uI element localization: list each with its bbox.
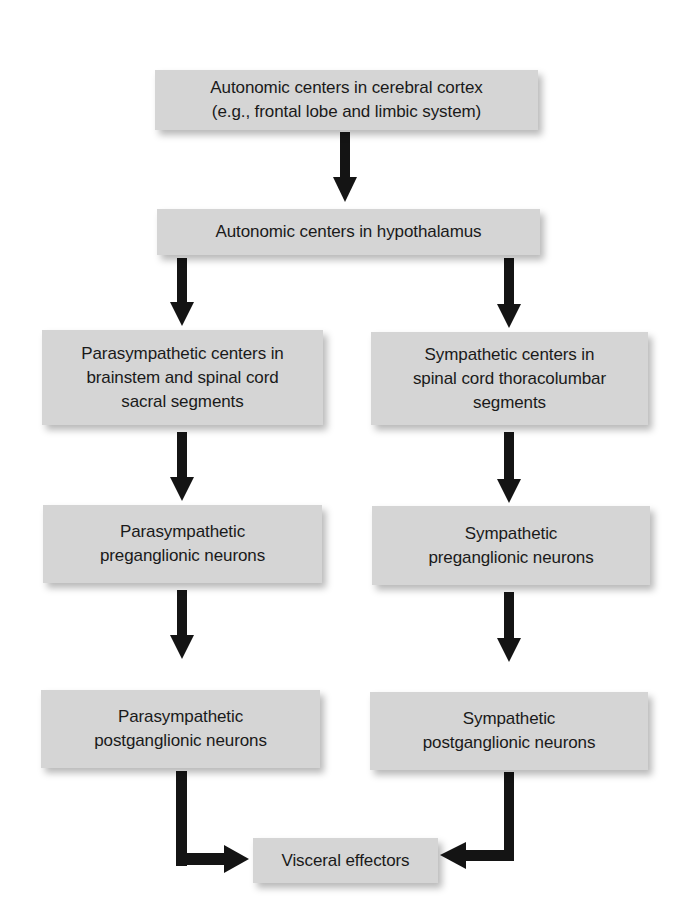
arrow-down-icon-para-centers-to-para-pre bbox=[170, 432, 194, 501]
node-sympathetic-postganglionic: Sympathetic postganglionic neurons bbox=[370, 692, 648, 770]
node-visceral-effectors: Visceral effectors bbox=[253, 838, 438, 883]
arrow-down-icon-hypothalamus-to-para-centers bbox=[170, 258, 194, 326]
node-text-line: Parasympathetic centers in bbox=[81, 342, 283, 366]
node-text-line: postganglionic neurons bbox=[423, 731, 596, 755]
node-parasympathetic-preganglionic: Parasympathetic preganglionic neurons bbox=[43, 505, 322, 583]
node-text-line: spinal cord thoracolumbar bbox=[413, 367, 606, 391]
node-text-line: Sympathetic bbox=[428, 522, 593, 546]
arrow-down-icon-symp-pre-to-symp-post bbox=[497, 592, 521, 662]
elbow-arrow-icon-para-post-to-effectors bbox=[176, 771, 249, 873]
node-text-line: Autonomic centers in cerebral cortex bbox=[210, 76, 482, 100]
node-sympathetic-centers: Sympathetic centers in spinal cord thora… bbox=[371, 332, 648, 425]
node-parasympathetic-centers: Parasympathetic centers in brainstem and… bbox=[42, 330, 323, 425]
node-text-line: postganglionic neurons bbox=[94, 729, 267, 753]
node-text-line: segments bbox=[413, 391, 606, 415]
arrow-down-icon-cortex-to-hypothalamus bbox=[333, 132, 357, 202]
arrow-down-icon-para-pre-to-para-post bbox=[170, 590, 194, 659]
node-text-line: brainstem and spinal cord bbox=[81, 366, 283, 390]
node-text-line: Sympathetic bbox=[423, 707, 596, 731]
node-text-line: preganglionic neurons bbox=[100, 544, 265, 568]
autonomic-nervous-system-flowchart: Autonomic centers in cerebral cortex (e.… bbox=[0, 0, 696, 912]
node-text-line: Autonomic centers in hypothalamus bbox=[215, 220, 481, 244]
node-hypothalamus-centers: Autonomic centers in hypothalamus bbox=[157, 209, 540, 255]
node-text-line: (e.g., frontal lobe and limbic system) bbox=[210, 100, 482, 124]
node-text-line: sacral segments bbox=[81, 390, 283, 414]
arrow-down-icon-symp-centers-to-symp-pre bbox=[497, 432, 521, 503]
node-text-line: Visceral effectors bbox=[282, 849, 410, 873]
connector-layer bbox=[0, 0, 696, 912]
node-text-line: Sympathetic centers in bbox=[413, 343, 606, 367]
node-parasympathetic-postganglionic: Parasympathetic postganglionic neurons bbox=[41, 690, 320, 768]
node-text-line: Parasympathetic bbox=[100, 520, 265, 544]
node-text-line: preganglionic neurons bbox=[428, 546, 593, 570]
node-text-line: Parasympathetic bbox=[94, 705, 267, 729]
node-cerebral-cortex-centers: Autonomic centers in cerebral cortex (e.… bbox=[155, 70, 538, 130]
node-sympathetic-preganglionic: Sympathetic preganglionic neurons bbox=[372, 506, 650, 585]
elbow-arrow-icon-symp-post-to-effectors bbox=[440, 772, 514, 869]
arrow-down-icon-hypothalamus-to-symp-centers bbox=[497, 258, 521, 328]
